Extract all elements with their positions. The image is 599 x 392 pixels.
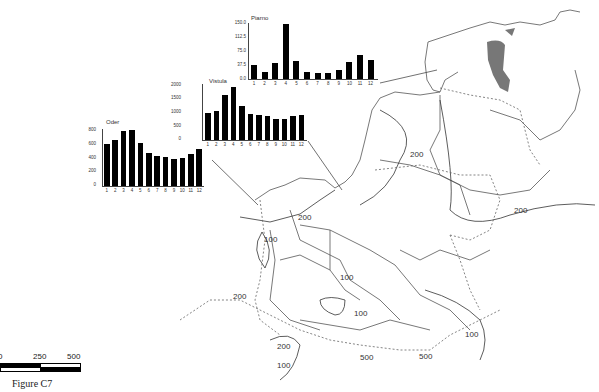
- x-tick-label: 7: [314, 81, 322, 86]
- bar: [146, 153, 152, 186]
- bar: [325, 73, 331, 79]
- bar: [104, 144, 110, 186]
- bar: [304, 72, 310, 79]
- bar: [222, 95, 228, 140]
- x-tick-label: 9: [272, 142, 280, 147]
- bar: [196, 149, 202, 186]
- bar: [357, 55, 363, 79]
- bar: [336, 70, 342, 79]
- isoline-label: 200: [277, 342, 290, 351]
- x-tick-label: 6: [145, 188, 153, 193]
- x-tick-label: 3: [271, 81, 279, 86]
- bar: [265, 116, 271, 140]
- x-tick-label: 7: [255, 142, 263, 147]
- bar: [112, 140, 118, 186]
- x-tick-label: 6: [303, 81, 311, 86]
- x-tick-label: 1: [103, 188, 111, 193]
- x-tick-label: 3: [221, 142, 229, 147]
- bar: [163, 157, 169, 186]
- bar: [188, 154, 194, 186]
- x-tick-label: 5: [136, 188, 144, 193]
- x-tick-label: 8: [162, 188, 170, 193]
- x-tick-label: 11: [187, 188, 195, 193]
- lake-peipus: [487, 41, 510, 92]
- x-tick-label: 8: [263, 142, 271, 147]
- bar: [346, 62, 352, 79]
- isoline-label: 100: [340, 273, 353, 282]
- x-tick-label: 9: [170, 188, 178, 193]
- bar: [262, 72, 268, 79]
- x-tick-label: 10: [345, 81, 353, 86]
- x-tick-label: 11: [356, 81, 364, 86]
- x-tick-label: 11: [289, 142, 297, 147]
- x-tick-label: 4: [229, 142, 237, 147]
- bar: [154, 156, 160, 186]
- bar: [256, 115, 262, 140]
- x-tick-label: 12: [367, 81, 375, 86]
- bar: [205, 113, 211, 140]
- x-tick-label: 12: [297, 142, 305, 147]
- bar: [248, 114, 254, 140]
- bar: [121, 131, 127, 186]
- x-tick-label: 5: [238, 142, 246, 147]
- bar: [231, 87, 237, 140]
- x-tick-label: 10: [178, 188, 186, 193]
- bar: [129, 130, 135, 186]
- bar: [293, 61, 299, 79]
- bar: [214, 111, 220, 140]
- x-tick-label: 7: [153, 188, 161, 193]
- bar: [138, 143, 144, 186]
- bar: [239, 106, 245, 140]
- isoline-label: 100: [277, 361, 290, 370]
- bar: [180, 158, 186, 186]
- x-tick-label: 6: [246, 142, 254, 147]
- x-tick-label: 12: [195, 188, 203, 193]
- bar: [290, 116, 296, 140]
- bar: [299, 115, 305, 140]
- isoline-label: 200: [233, 292, 246, 301]
- isoline-label: 200: [514, 206, 527, 215]
- chart-title: Vistula: [209, 78, 227, 84]
- isoline-label: 200: [298, 213, 311, 222]
- x-tick-label: 9: [335, 81, 343, 86]
- chart-title: Piarno: [251, 15, 268, 21]
- isoline-label: 500: [419, 352, 432, 361]
- x-tick-label: 8: [324, 81, 332, 86]
- x-tick-label: 2: [261, 81, 269, 86]
- x-tick-label: 1: [250, 81, 258, 86]
- x-tick-label: 1: [204, 142, 212, 147]
- isoline-label: 100: [264, 235, 277, 244]
- x-tick-label: 4: [128, 188, 136, 193]
- isoline-label: 500: [360, 353, 373, 362]
- bar: [315, 73, 321, 79]
- x-tick-label: 2: [212, 142, 220, 147]
- chart-title: Oder: [106, 119, 119, 125]
- x-tick-label: 3: [120, 188, 128, 193]
- figure-caption: Figure C7: [12, 378, 52, 389]
- bar: [251, 65, 257, 79]
- bar: [272, 63, 278, 79]
- bar: [368, 60, 374, 79]
- x-tick-label: 5: [292, 81, 300, 86]
- x-tick-label: 4: [282, 81, 290, 86]
- bar: [171, 159, 177, 186]
- x-tick-label: 10: [280, 142, 288, 147]
- bar: [283, 24, 289, 79]
- bar: [273, 119, 279, 140]
- isoline-label: 100: [354, 309, 367, 318]
- bar: [282, 119, 288, 140]
- x-tick-label: 2: [111, 188, 119, 193]
- chart-piarno: Piarno 150.0 112.5 75.0 37.5 0.0 1234567…: [230, 15, 380, 85]
- isoline-label: 200: [410, 150, 423, 159]
- isoline-label: 100: [465, 330, 478, 339]
